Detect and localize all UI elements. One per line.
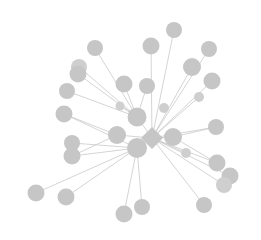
graph-node[interactable] xyxy=(108,126,126,144)
graph-node[interactable] xyxy=(159,103,169,113)
graph-node[interactable] xyxy=(87,40,103,56)
graph-edge xyxy=(152,67,192,138)
graph-node[interactable] xyxy=(143,38,160,55)
graph-edge xyxy=(36,148,137,193)
graph-node[interactable] xyxy=(164,128,182,146)
graph-node[interactable] xyxy=(139,78,155,94)
graph-node[interactable] xyxy=(208,119,224,135)
node-layer xyxy=(28,22,239,223)
graph-node[interactable] xyxy=(58,189,75,206)
graph-node[interactable] xyxy=(127,138,147,158)
graph-node[interactable] xyxy=(194,92,204,102)
graph-node[interactable] xyxy=(56,106,73,123)
graph-node[interactable] xyxy=(181,148,191,158)
graph-node[interactable] xyxy=(183,58,201,76)
graph-edge xyxy=(79,67,137,117)
graph-node[interactable] xyxy=(116,206,133,223)
graph-node[interactable] xyxy=(59,83,75,99)
graph-node[interactable] xyxy=(64,148,81,165)
graph-node[interactable] xyxy=(204,73,221,90)
graph-node[interactable] xyxy=(216,177,232,193)
network-graph-svg xyxy=(0,0,261,240)
graph-node[interactable] xyxy=(209,155,226,172)
graph-edge xyxy=(67,91,137,117)
graph-node[interactable] xyxy=(166,22,182,38)
graph-node[interactable] xyxy=(128,108,147,127)
graph-node[interactable] xyxy=(196,197,212,213)
network-graph-canvas xyxy=(0,0,261,240)
graph-node[interactable] xyxy=(116,102,125,111)
graph-node[interactable] xyxy=(116,76,133,93)
graph-node[interactable] xyxy=(201,41,217,57)
graph-node[interactable] xyxy=(70,66,87,83)
graph-node[interactable] xyxy=(134,199,150,215)
graph-node[interactable] xyxy=(28,185,45,202)
